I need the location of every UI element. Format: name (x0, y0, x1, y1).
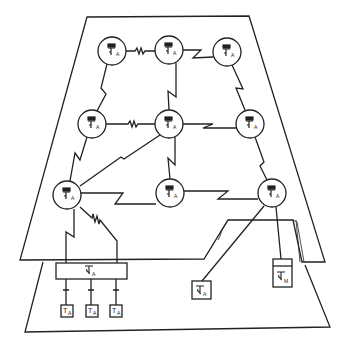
svg-text:A: A (203, 291, 207, 297)
node-circle (156, 179, 184, 207)
node-circle (236, 110, 264, 138)
bus-box-label: A (85, 266, 96, 277)
node-circle (53, 181, 81, 209)
node-circle (98, 37, 126, 65)
terminal-connector (88, 279, 94, 305)
node-circle (213, 38, 241, 66)
svg-text:A: A (93, 310, 97, 316)
box-m (273, 259, 292, 287)
node-circle (78, 110, 106, 138)
box-a (192, 281, 211, 299)
node-circle (258, 179, 286, 207)
node-circle (155, 110, 183, 138)
svg-text:M: M (284, 278, 288, 284)
terminal-connector (113, 279, 119, 305)
network-diagram: A A A A A A A A A A T A T A T A A (0, 0, 348, 350)
svg-text:A: A (92, 271, 96, 277)
box-m-label: M (277, 272, 288, 284)
diagram-canvas: A A A A A A A A A A T A T A T A A (0, 0, 348, 350)
svg-text:A: A (117, 310, 121, 316)
svg-text:A: A (68, 310, 72, 316)
terminal-connector (63, 279, 69, 305)
box-a-label: A (196, 286, 207, 297)
node-circle (155, 36, 183, 64)
terminal-labels: T A T A T A (63, 307, 121, 316)
